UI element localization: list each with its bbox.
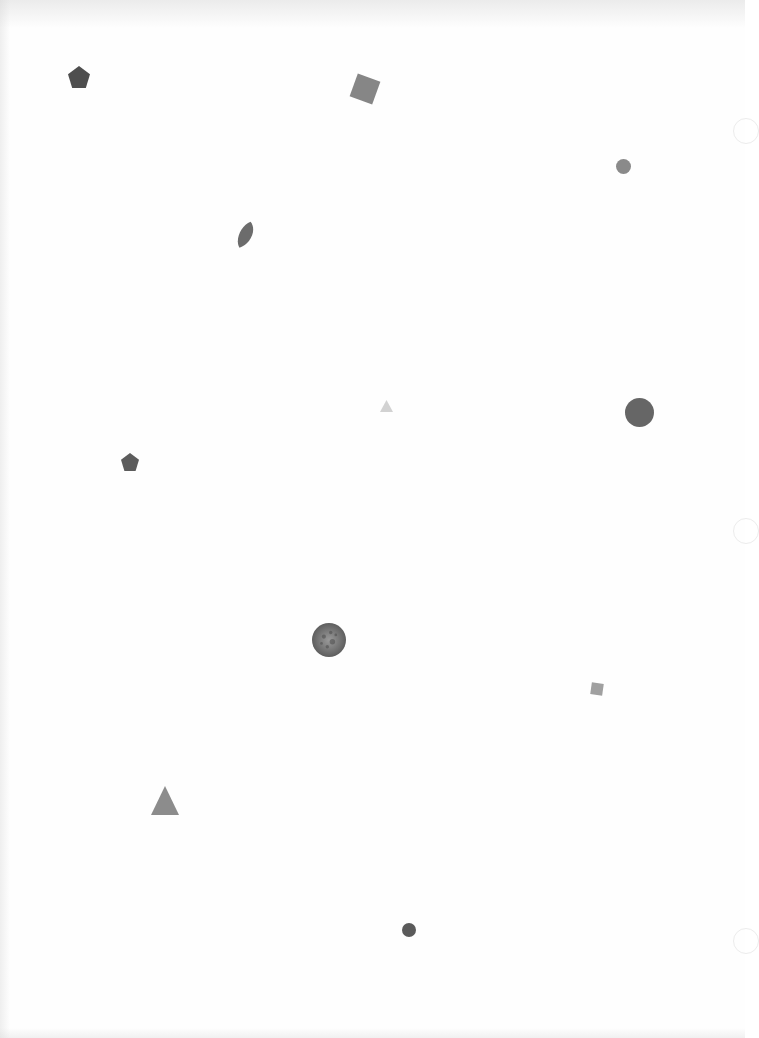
punch-hole-icon (733, 518, 759, 544)
square-shape-icon (350, 74, 381, 105)
punch-hole-icon (733, 118, 759, 144)
pentagon-shape-icon (68, 66, 90, 88)
punch-hole-icon (733, 928, 759, 954)
circle-shape-icon (616, 159, 631, 174)
square-shape-icon (590, 682, 604, 696)
leaf-shape-icon (233, 219, 260, 251)
pentagon-shape-icon (121, 453, 139, 471)
scan-shadow-left (0, 0, 10, 1038)
triangle-shape-icon (151, 786, 179, 815)
circle-shape-icon (625, 398, 654, 427)
circle-shape-icon (402, 923, 416, 937)
scan-shadow-bottom (0, 1028, 745, 1038)
textured-circle-shape-icon (312, 623, 346, 657)
triangle-shape-icon (380, 400, 393, 412)
scan-shadow-top (0, 0, 745, 28)
